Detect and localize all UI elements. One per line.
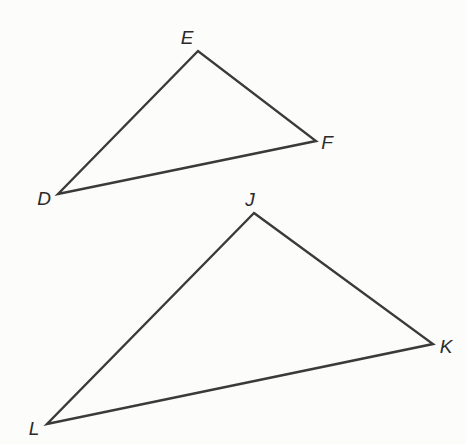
diagram-canvas: D E F J K L <box>0 0 466 444</box>
vertex-label-d: D <box>37 189 51 208</box>
vertex-label-j: J <box>245 190 255 209</box>
vertex-label-f: F <box>321 133 333 152</box>
vertex-label-l: L <box>29 419 40 438</box>
vertex-label-k: K <box>440 337 453 356</box>
triangle-def <box>58 51 316 194</box>
triangles-figure <box>0 0 466 444</box>
vertex-label-e: E <box>181 28 194 47</box>
triangle-jkl <box>47 213 433 424</box>
